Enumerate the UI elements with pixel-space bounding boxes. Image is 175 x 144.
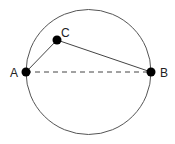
circle-triangle-diagram: A B C — [0, 0, 175, 144]
point-a — [22, 68, 31, 77]
label-b: B — [160, 66, 168, 80]
label-a: A — [10, 66, 18, 80]
point-b — [147, 68, 156, 77]
segment-cb — [57, 40, 151, 72]
segment-ac — [26, 40, 57, 72]
label-c: C — [61, 26, 70, 40]
